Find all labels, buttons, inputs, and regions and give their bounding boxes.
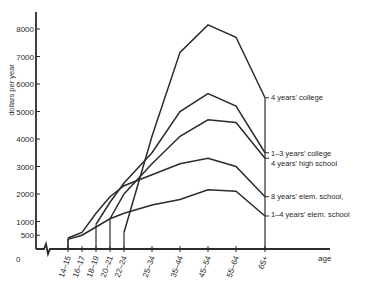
series-line bbox=[110, 120, 265, 219]
series-labels: 4 years' college1–3 years' college4 year… bbox=[265, 93, 350, 219]
y-tick-label: 7000 bbox=[16, 53, 34, 62]
series-label: 8 years' elem. school, bbox=[271, 192, 343, 201]
x-tick-label: 25–34 bbox=[141, 254, 157, 279]
x-tick-label: 35–44 bbox=[169, 254, 185, 279]
series-label: 4 years' college bbox=[271, 93, 323, 102]
y-tick-label: 5000 bbox=[16, 108, 34, 117]
series-label: 4 years' high school bbox=[271, 159, 337, 168]
y-tick-label: 3000 bbox=[16, 163, 34, 172]
series-line bbox=[68, 190, 265, 240]
y-tick-label: 6000 bbox=[16, 80, 34, 89]
y-tick-label: 500 bbox=[21, 231, 35, 240]
y-tick-label: 4000 bbox=[16, 135, 34, 144]
x-axis bbox=[36, 244, 330, 254]
origin-label: 0 bbox=[16, 255, 21, 264]
series-line bbox=[124, 25, 265, 233]
series-lines bbox=[68, 25, 265, 240]
x-axis-ticks: 14–1516–1718–1920–2122–2425–3435–4445–54… bbox=[57, 246, 270, 279]
x-tick-label: 55–64 bbox=[225, 254, 241, 279]
series-label: 1–3 years' college bbox=[271, 149, 331, 158]
x-axis-title: age bbox=[318, 254, 332, 263]
y-axis-title: dollars per year bbox=[7, 64, 16, 116]
x-tick-label: 22–24 bbox=[113, 254, 129, 279]
y-tick-label: 2000 bbox=[16, 190, 34, 199]
y-tick-label: 1000 bbox=[16, 218, 34, 227]
series-line bbox=[96, 94, 265, 225]
series-label: 1–4 years' elem. school bbox=[271, 210, 350, 219]
x-tick-label: 65+ bbox=[257, 254, 270, 270]
x-tick-label: 45–54 bbox=[197, 254, 213, 279]
income-by-age-education-chart: dollars per year 50010002000300040005000… bbox=[0, 0, 370, 283]
y-tick-label: 8000 bbox=[16, 25, 34, 34]
